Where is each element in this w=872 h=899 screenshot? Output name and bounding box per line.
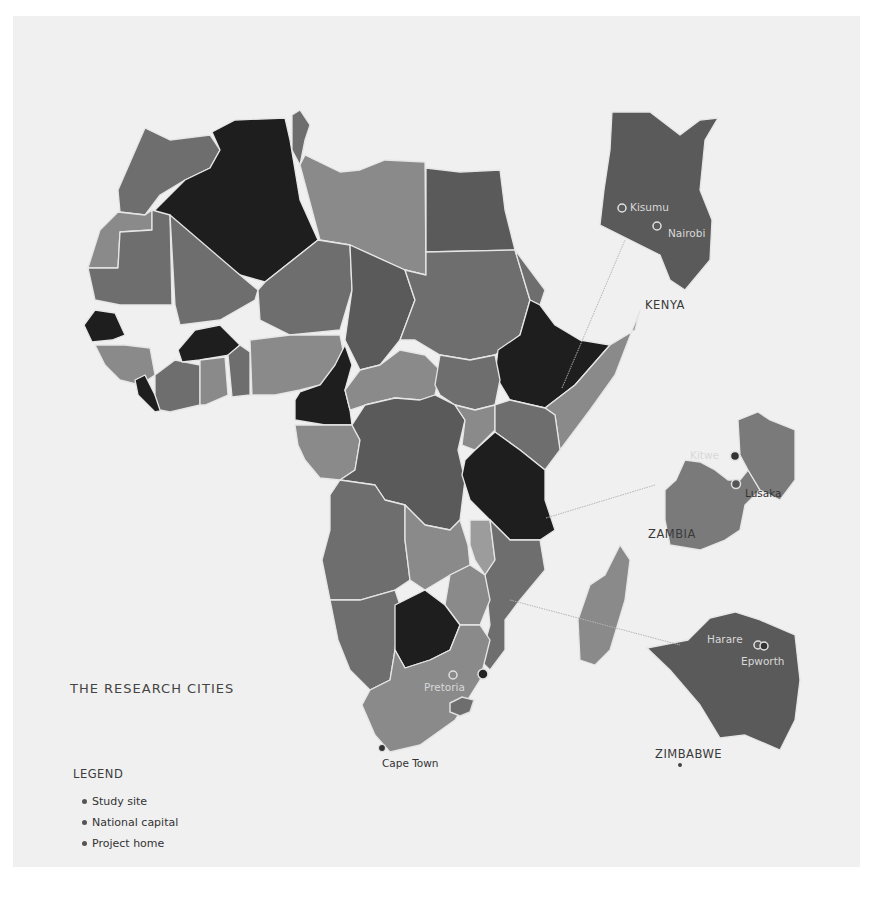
map-title: THE RESEARCH CITIES [70, 681, 234, 696]
project-home-dot-icon [82, 841, 87, 846]
pretoria-label: Pretoria [424, 681, 465, 693]
country-gabon-congo [295, 425, 360, 480]
cape-town-label: Cape Town [382, 757, 439, 769]
legend-item-label: National capital [92, 812, 178, 833]
harare-label: Harare [707, 633, 743, 645]
country-egypt [426, 168, 515, 252]
country-madagascar [578, 545, 630, 665]
legend: Study site National capital Project home [82, 791, 178, 854]
leader-line [546, 485, 655, 518]
zimbabwe-label: ZIMBABWE [655, 747, 722, 761]
legend-item-national-capital: National capital [82, 812, 178, 833]
legend-item-project-home: Project home [82, 833, 178, 854]
nairobi-label: Nairobi [668, 227, 705, 239]
national-capital-dot-icon [82, 820, 87, 825]
legend-item-study-site: Study site [82, 791, 178, 812]
kenya-label: KENYA [645, 298, 685, 312]
kitwe-label: Kitwe [690, 449, 719, 461]
epworth-label: Epworth [741, 655, 784, 667]
study-site-dot-icon [82, 799, 87, 804]
lesotho-eswatini-marker [478, 669, 488, 679]
kisumu-label: Kisumu [630, 201, 669, 213]
cape-town-marker[interactable] [379, 745, 386, 752]
zambia-label: ZAMBIA [648, 527, 696, 541]
legend-item-label: Study site [92, 791, 147, 812]
lusaka-label: Lusaka [745, 487, 782, 499]
country-cote-divoire [155, 360, 200, 412]
epworth-marker[interactable] [760, 642, 768, 650]
country-namibia [330, 590, 400, 690]
country-shapes [84, 110, 800, 752]
legend-title: LEGEND [73, 767, 123, 781]
kitwe-marker[interactable] [731, 452, 740, 461]
country-togo-benin [228, 345, 250, 397]
lusaka-marker[interactable] [732, 480, 741, 489]
country-ghana [200, 357, 228, 405]
zimbabwe-project-home-dot [678, 763, 682, 767]
legend-item-label: Project home [92, 833, 164, 854]
country-senegal [84, 310, 125, 342]
